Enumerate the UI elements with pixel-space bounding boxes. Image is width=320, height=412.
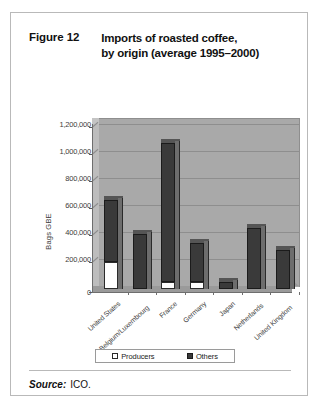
- y-axis-tick-label: 400,000: [31, 228, 91, 237]
- figure-title-line-2: by origin (average 1995–2000): [101, 46, 259, 61]
- y-axis-line: [92, 124, 93, 292]
- source-value: ICO.: [70, 379, 91, 390]
- bar-germany: [190, 243, 204, 289]
- legend-item-producers: Producers: [112, 352, 154, 361]
- gridline: [99, 124, 299, 125]
- bar-side-face: [175, 141, 180, 289]
- bar-side-face: [147, 232, 152, 289]
- figure-title-line-1: Imports of roasted coffee,: [101, 31, 259, 46]
- legend-swatch-others-icon: [187, 353, 193, 359]
- bar-japan: [219, 282, 233, 289]
- bar-segment-producers: [190, 282, 204, 289]
- x-axis-label-germany: Germany: [154, 300, 208, 349]
- x-axis-tick: [185, 292, 186, 295]
- page-title: Imports of roasted coffee, by origin (av…: [101, 31, 259, 60]
- y-axis-tick-label: 200,000: [31, 255, 91, 264]
- bar-segment-others: [276, 250, 290, 289]
- x-axis-tick: [128, 292, 129, 295]
- legend-label-others: Others: [196, 352, 218, 361]
- bar-segment-others: [219, 282, 233, 289]
- x-axis-label-netherlands: Netherlands: [211, 302, 265, 351]
- bar-segment-producers: [161, 282, 175, 289]
- y-axis-tick-label: 600,000: [31, 201, 91, 210]
- chart-plot: Bags GBE 0200,000400,000600,000800,0001,…: [25, 109, 305, 369]
- bar-segment-producers: [104, 262, 118, 289]
- bar-segment-others: [133, 234, 147, 289]
- figure-frame: Figure 12 Imports of roasted coffee, by …: [10, 12, 308, 396]
- bar-segment-others: [161, 143, 175, 282]
- legend-label-producers: Producers: [121, 352, 154, 361]
- gridline: [99, 178, 299, 179]
- bar-belgium-luxembourg: [133, 234, 147, 289]
- gridline: [99, 232, 299, 233]
- x-axis-label-japan: Japan: [182, 300, 236, 349]
- x-axis-tick: [299, 292, 300, 295]
- bar-side-face: [290, 248, 295, 289]
- y-axis-tick-label: 1,200,000: [31, 120, 91, 129]
- source-label: Source:: [29, 379, 66, 390]
- bar-netherlands: [247, 228, 261, 289]
- gridline: [99, 151, 299, 152]
- x-axis-line: [92, 292, 292, 293]
- bar-united-states: [104, 200, 118, 289]
- figure-title-block: Figure 12 Imports of roasted coffee, by …: [29, 31, 291, 60]
- legend-swatch-producers-icon: [112, 353, 118, 359]
- x-axis-tick: [156, 292, 157, 295]
- y-axis-tick-label: 1,000,000: [31, 147, 91, 156]
- x-axis-tick: [213, 292, 214, 295]
- bar-side-face: [118, 198, 123, 289]
- bar-segment-others: [190, 243, 204, 281]
- chart-legend: Producers Others: [95, 349, 235, 363]
- bar-france: [161, 143, 175, 289]
- x-axis-tick: [270, 292, 271, 295]
- figure-number: Figure 12: [29, 31, 79, 43]
- bar-segment-others: [247, 228, 261, 289]
- x-axis-tick: [242, 292, 243, 295]
- y-axis-tick-label: 0: [31, 288, 91, 297]
- legend-item-others: Others: [187, 352, 218, 361]
- y-axis-tick-label: 800,000: [31, 174, 91, 183]
- bar-united-kingdom: [276, 250, 290, 289]
- gridline: [99, 205, 299, 206]
- bar-side-face: [261, 226, 266, 289]
- bar-segment-others: [104, 200, 118, 262]
- bar-side-face: [204, 241, 209, 289]
- source-note: Source:ICO.: [29, 379, 91, 390]
- source-divider: [29, 370, 291, 371]
- bar-side-face: [233, 280, 238, 289]
